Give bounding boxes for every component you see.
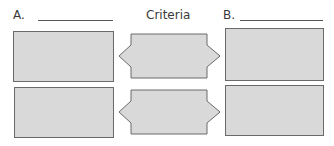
label-a: A.: [13, 8, 25, 22]
blank-line-b[interactable]: [240, 20, 323, 21]
double-arrow-criteria-box-2[interactable]: [118, 89, 222, 135]
item-a-box-1[interactable]: [13, 31, 114, 82]
blank-line-a[interactable]: [38, 20, 113, 21]
criteria-heading: Criteria: [146, 8, 190, 22]
item-a-box-2[interactable]: [14, 87, 114, 138]
label-b: B.: [223, 8, 235, 22]
item-b-box-2[interactable]: [225, 85, 324, 136]
double-arrow-criteria-box-1[interactable]: [118, 33, 222, 79]
item-b-box-1[interactable]: [225, 28, 324, 81]
